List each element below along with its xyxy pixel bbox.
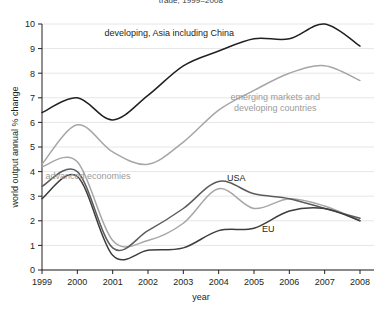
series-label-line: developing countries: [234, 103, 317, 113]
series-label-line: emerging markets and: [230, 92, 320, 102]
x-axis-tick-label: 2006: [279, 277, 299, 287]
y-axis-tick-label: 4: [30, 167, 35, 177]
y-axis-tick-label: 8: [30, 69, 35, 79]
x-axis-tick-label: 2004: [209, 277, 229, 287]
series-label-3: USA: [227, 173, 246, 183]
y-axis-tick-label: 0: [30, 265, 35, 275]
y-axis-tick-label: 9: [30, 44, 35, 54]
x-axis-tick-label: 2000: [67, 277, 87, 287]
series-label-4: EU: [262, 224, 275, 234]
y-axis-tick-label: 2: [30, 216, 35, 226]
y-axis-tick-label: 6: [30, 118, 35, 128]
series-label-2: advanced economies: [45, 171, 131, 181]
x-axis-tick-label: 2005: [244, 277, 264, 287]
series-label-1: emerging markets anddeveloping countries: [230, 92, 320, 113]
y-axis-tick-label: 7: [30, 93, 35, 103]
series-line-1: [42, 66, 360, 165]
series-line-3: [42, 169, 360, 251]
y-axis-title: world output annual % change: [10, 86, 20, 208]
y-axis-tick-label: 1: [30, 241, 35, 251]
x-axis-tick-label: 2001: [103, 277, 123, 287]
x-axis-tick-label: 2002: [138, 277, 158, 287]
y-axis-tick-label: 10: [25, 19, 35, 29]
line-chart: 0123456789101999200020012002200320042005…: [0, 0, 382, 309]
x-axis-tick-label: 2008: [350, 277, 370, 287]
y-axis-tick-label: 3: [30, 192, 35, 202]
chart-container: trade, 1999–2008 01234567891019992000200…: [0, 0, 382, 309]
y-axis-tick-label: 5: [30, 142, 35, 152]
x-axis-tick-label: 1999: [32, 277, 52, 287]
x-axis-title: year: [192, 292, 210, 302]
x-axis-tick-label: 2003: [173, 277, 193, 287]
series-label-0: developing, Asia including China: [104, 28, 234, 38]
x-axis-tick-label: 2007: [315, 277, 335, 287]
